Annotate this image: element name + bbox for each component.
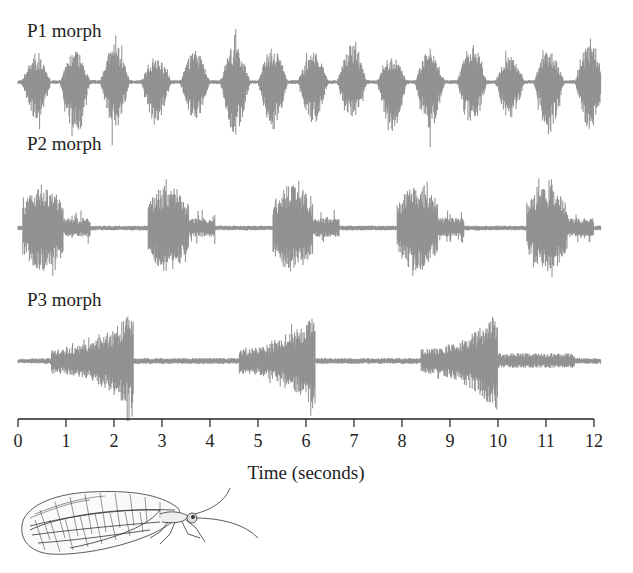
x-axis-tick-label: 7	[350, 431, 359, 452]
lacewing-illustration	[10, 480, 280, 570]
x-axis-tick-label: 3	[158, 431, 167, 452]
x-axis-tick-label: 12	[585, 431, 603, 452]
p1-waveform	[18, 29, 601, 147]
x-axis-tick-label: 2	[110, 431, 119, 452]
x-axis-tick-label: 5	[254, 431, 263, 452]
x-axis-tick-label: 4	[206, 431, 215, 452]
x-axis-tick-label: 8	[398, 431, 407, 452]
x-axis-tick-label: 0	[14, 431, 23, 452]
p2-morph-label: P2 morph	[27, 133, 101, 155]
p3-morph-label: P3 morph	[27, 289, 101, 311]
x-axis-tick-label: 6	[302, 431, 311, 452]
x-axis-tick-label: 10	[489, 431, 507, 452]
x-axis-tick-label: 9	[446, 431, 455, 452]
x-axis-tick-label: 11	[537, 431, 554, 452]
x-axis-tick-label: 1	[62, 431, 71, 452]
p3-waveform	[18, 317, 601, 422]
x-axis	[18, 419, 594, 427]
p2-waveform	[18, 178, 601, 277]
p1-morph-label: P1 morph	[27, 20, 101, 42]
